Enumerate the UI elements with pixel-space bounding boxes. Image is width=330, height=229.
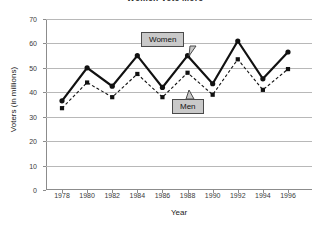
x-tick-label: 1978 [54, 192, 70, 199]
y-tick-label: 10 [29, 162, 37, 169]
data-point [261, 88, 265, 92]
y-tick-label: 60 [29, 40, 37, 47]
data-point [235, 38, 240, 43]
x-tick-label: 1996 [280, 192, 296, 199]
x-tick-label: 1990 [205, 192, 221, 199]
data-point [135, 53, 140, 58]
y-tick-mark [43, 92, 46, 93]
y-tick-label: 50 [29, 64, 37, 71]
data-point [160, 95, 164, 99]
x-tick-label: 1982 [104, 192, 120, 199]
x-tick-label: 1994 [255, 192, 271, 199]
x-tick-label: 1992 [230, 192, 246, 199]
data-point [260, 76, 265, 81]
data-point [286, 67, 290, 71]
y-tick-mark [43, 190, 46, 191]
x-tick-label: 1980 [79, 192, 95, 199]
series-line [62, 41, 288, 101]
y-axis-title: Voters (in millions) [9, 35, 18, 165]
x-tick-label: 1984 [130, 192, 146, 199]
data-point [85, 65, 90, 70]
y-tick-label: 20 [29, 138, 37, 145]
series-women [59, 38, 290, 103]
annotation-women: Women [141, 32, 184, 47]
data-point [211, 93, 215, 97]
y-tick-label: 0 [33, 187, 37, 194]
data-point [60, 106, 64, 110]
y-tick-label: 30 [29, 113, 37, 120]
x-axis-title: Year [46, 208, 312, 217]
chart-title: Women Vote More [0, 0, 330, 1]
data-point [85, 80, 89, 84]
y-axis-tick-labels: 010203040506070 [0, 19, 42, 190]
x-tick-label: 1988 [180, 192, 196, 199]
y-tick-mark [43, 43, 46, 44]
y-tick-label: 40 [29, 89, 37, 96]
annotation-men: Men [172, 99, 204, 114]
y-tick-mark [43, 117, 46, 118]
y-tick-label: 70 [29, 16, 37, 23]
chart-container: Women Vote More 010203040506070 19781980… [0, 0, 330, 229]
data-point [110, 84, 115, 89]
y-tick-mark [43, 166, 46, 167]
y-tick-mark [43, 68, 46, 69]
data-point [236, 57, 240, 61]
y-tick-mark [43, 141, 46, 142]
x-axis-tick-labels: 1978198019821984198619881990199219941996 [46, 192, 312, 204]
data-point [110, 95, 114, 99]
data-point [285, 49, 290, 54]
x-tick-label: 1986 [155, 192, 171, 199]
data-point [210, 81, 215, 86]
data-point [185, 71, 189, 75]
data-point [135, 72, 139, 76]
data-point [160, 85, 165, 90]
data-point [59, 98, 64, 103]
data-point [185, 53, 190, 58]
y-tick-mark [43, 19, 46, 20]
